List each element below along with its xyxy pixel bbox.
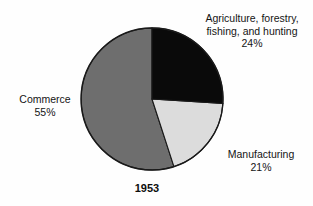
pie-label-commerce: Commerce 55% [8, 93, 82, 118]
pie-label-agriculture-value: 24% [193, 37, 311, 50]
pie-label-agriculture-line1: Agriculture, forestry, [193, 12, 311, 25]
chart-caption-year: 1953 [112, 182, 182, 194]
pie-label-manufacturing-line1: Manufacturing [213, 148, 309, 161]
pie-chart-figure: Agriculture, forestry, fishing, and hunt… [0, 0, 313, 206]
pie-label-agriculture: Agriculture, forestry, fishing, and hunt… [193, 12, 311, 50]
pie-label-manufacturing-value: 21% [213, 161, 309, 174]
pie-label-agriculture-line2: fishing, and hunting [193, 25, 311, 38]
pie-label-commerce-line1: Commerce [8, 93, 82, 106]
pie-label-commerce-value: 55% [8, 106, 82, 119]
pie-label-manufacturing: Manufacturing 21% [213, 148, 309, 173]
